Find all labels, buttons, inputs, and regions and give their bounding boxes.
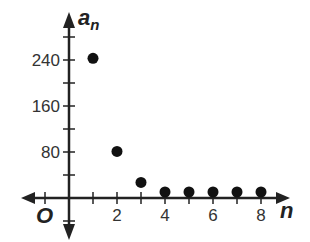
x-tick-label: 2 <box>112 206 121 225</box>
x-axis-label: n <box>280 198 293 223</box>
y-tick-label: 240 <box>32 51 60 70</box>
data-point <box>160 187 171 198</box>
data-point <box>112 146 123 157</box>
data-point <box>232 187 243 198</box>
y-tick-label: 80 <box>41 143 60 162</box>
data-point <box>88 53 99 64</box>
ticks <box>45 37 261 221</box>
x-tick-label: 6 <box>208 206 217 225</box>
axes <box>21 12 290 240</box>
y-tick-label: 160 <box>32 97 60 116</box>
origin-label: O <box>36 203 53 228</box>
y-axis-arrow-up-icon <box>63 12 75 28</box>
data-points <box>88 53 267 198</box>
data-point <box>184 187 195 198</box>
x-tick-label: 4 <box>160 206 169 225</box>
y-axis-label-subscript: n <box>90 16 99 33</box>
y-axis-arrow-down-icon <box>63 224 75 240</box>
sequence-scatter-plot: 246880160240 O n an <box>0 0 310 242</box>
data-point <box>256 187 267 198</box>
x-tick-label: 8 <box>256 206 265 225</box>
x-axis-arrow-left-icon <box>21 192 35 204</box>
data-point <box>208 187 219 198</box>
y-axis-label: an <box>78 5 99 33</box>
data-point <box>136 177 147 188</box>
y-axis-label-main: a <box>78 5 90 30</box>
